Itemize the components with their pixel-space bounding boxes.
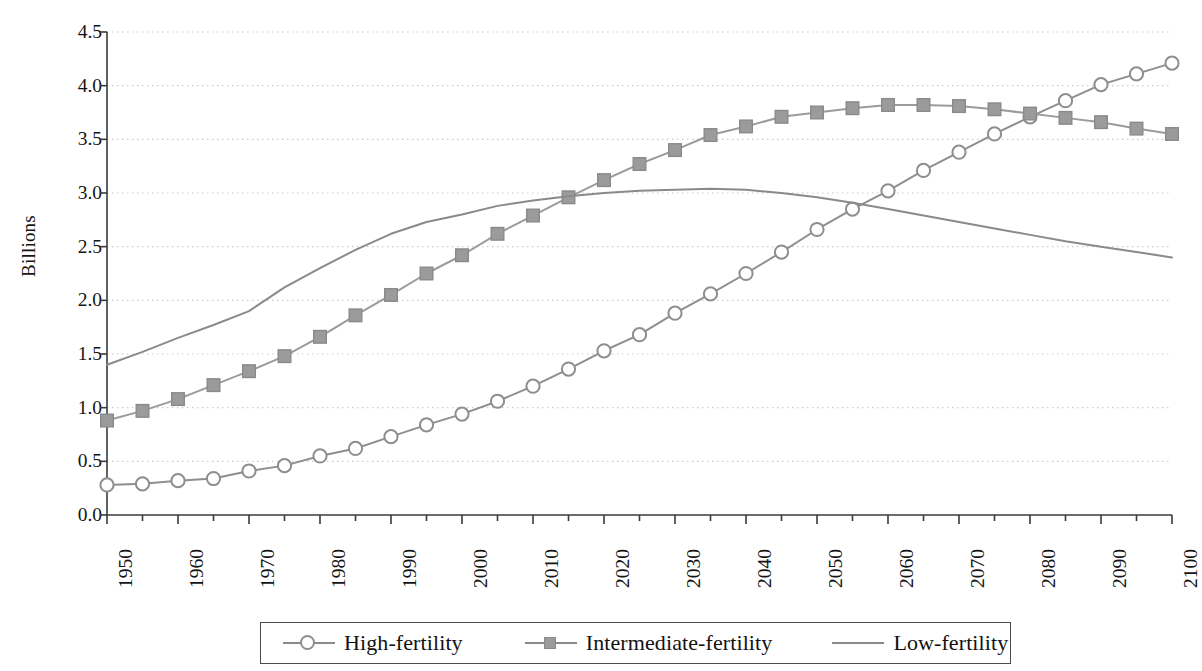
marker-filled-square xyxy=(988,103,1001,116)
marker-filled-square xyxy=(633,158,646,171)
legend-marker-icon xyxy=(832,633,884,653)
marker-filled-square xyxy=(349,309,362,322)
marker-open-circle xyxy=(633,328,646,341)
marker-open-circle xyxy=(278,459,291,472)
open-circle-icon xyxy=(300,635,315,650)
marker-filled-square xyxy=(101,414,114,427)
marker-filled-square xyxy=(669,144,682,157)
marker-open-circle xyxy=(597,344,610,357)
marker-open-circle xyxy=(562,362,575,375)
marker-open-circle xyxy=(810,223,823,236)
marker-open-circle xyxy=(349,442,362,455)
legend-marker-icon xyxy=(283,633,335,653)
marker-open-circle xyxy=(384,430,397,443)
marker-open-circle xyxy=(136,477,149,490)
marker-open-circle xyxy=(668,307,681,320)
marker-filled-square xyxy=(598,174,611,187)
marker-open-circle xyxy=(242,464,255,477)
marker-open-circle xyxy=(988,127,1001,140)
marker-open-circle xyxy=(952,146,965,159)
marker-filled-square xyxy=(420,267,433,280)
marker-filled-square xyxy=(704,129,717,142)
marker-filled-square xyxy=(491,227,504,240)
marker-open-circle xyxy=(313,449,326,462)
marker-filled-square xyxy=(811,106,824,119)
marker-open-circle xyxy=(491,395,504,408)
marker-open-circle xyxy=(704,287,717,300)
marker-open-circle xyxy=(917,164,930,177)
legend-line xyxy=(832,642,884,644)
marker-open-circle xyxy=(1165,57,1178,70)
series-line-intermediate-fertility xyxy=(107,105,1172,421)
marker-open-circle xyxy=(420,418,433,431)
marker-filled-square xyxy=(1166,128,1179,141)
marker-filled-square xyxy=(278,350,291,363)
marker-open-circle xyxy=(100,478,113,491)
marker-open-circle xyxy=(1130,67,1143,80)
marker-filled-square xyxy=(1059,112,1072,125)
marker-open-circle xyxy=(739,267,752,280)
marker-filled-square xyxy=(882,99,895,112)
marker-open-circle xyxy=(207,472,220,485)
legend-item-high-fertility[interactable]: High-fertility xyxy=(283,630,463,656)
legend-label: High-fertility xyxy=(344,630,463,656)
legend-item-intermediate-fertility[interactable]: Intermediate-fertility xyxy=(525,630,773,656)
marker-open-circle xyxy=(455,408,468,421)
marker-open-circle xyxy=(775,245,788,258)
marker-open-circle xyxy=(881,184,894,197)
marker-filled-square xyxy=(207,379,220,392)
legend-label: Low-fertility xyxy=(893,630,1008,656)
marker-filled-square xyxy=(1095,116,1108,129)
chart-legend: High-fertilityIntermediate-fertilityLow-… xyxy=(260,622,1011,664)
legend-item-low-fertility[interactable]: Low-fertility xyxy=(832,630,1008,656)
marker-filled-square xyxy=(917,99,930,112)
marker-filled-square xyxy=(740,120,753,133)
marker-open-circle xyxy=(1059,94,1072,107)
legend-label: Intermediate-fertility xyxy=(586,630,773,656)
marker-open-circle xyxy=(526,380,539,393)
marker-filled-square xyxy=(136,405,149,418)
marker-filled-square xyxy=(775,110,788,123)
legend-marker-icon xyxy=(525,633,577,653)
marker-open-circle xyxy=(1094,78,1107,91)
series-line-high-fertility xyxy=(107,63,1172,485)
marker-filled-square xyxy=(385,289,398,302)
marker-filled-square xyxy=(1024,107,1037,120)
marker-filled-square xyxy=(953,100,966,113)
marker-filled-square xyxy=(1130,122,1143,135)
filled-square-icon xyxy=(544,637,556,649)
marker-filled-square xyxy=(456,249,469,262)
marker-filled-square xyxy=(314,331,327,344)
marker-open-circle xyxy=(171,474,184,487)
marker-filled-square xyxy=(172,393,185,406)
marker-filled-square xyxy=(527,209,540,222)
marker-filled-square xyxy=(846,102,859,115)
marker-filled-square xyxy=(243,365,256,378)
